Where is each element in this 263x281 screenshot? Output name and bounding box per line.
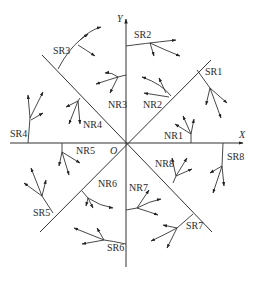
region-label-sr5: SR5 (33, 208, 50, 218)
region-label-nr5: NR5 (76, 146, 95, 156)
region-label-nr3: NR3 (108, 100, 127, 110)
trajectory-sr2 (126, 40, 180, 56)
region-label-sr6: SR6 (107, 243, 124, 253)
region-diagram (0, 0, 263, 281)
trajectory-nr6 (82, 191, 113, 208)
trajectory-nr3 (96, 73, 126, 93)
origin-label: O (110, 146, 117, 156)
region-label-nr6: NR6 (98, 179, 117, 189)
region-label-nr2: NR2 (143, 100, 162, 110)
region-label-nr7: NR7 (129, 183, 148, 193)
region-label-sr1: SR1 (205, 67, 222, 77)
trajectory-sr4 (28, 92, 43, 143)
region-label-sr8: SR8 (227, 152, 244, 162)
region-label-nr8: NR8 (155, 159, 174, 169)
region-label-nr1: NR1 (164, 131, 183, 141)
trajectory-nr7 (126, 190, 161, 215)
region-label-sr4: SR4 (10, 129, 27, 139)
y-axis-label: Y (117, 14, 123, 24)
trajectory-nr8 (172, 158, 192, 183)
trajectory-nr2 (142, 77, 171, 97)
x-axis-label: X (239, 130, 245, 140)
region-label-sr7: SR7 (186, 221, 203, 231)
trajectory-sr8 (210, 143, 224, 193)
region-label-nr4: NR4 (83, 120, 102, 130)
region-label-sr2: SR2 (134, 30, 151, 40)
region-label-sr3: SR3 (53, 46, 70, 56)
trajectory-sr1 (197, 70, 227, 118)
trajectory-nr4 (66, 98, 80, 124)
